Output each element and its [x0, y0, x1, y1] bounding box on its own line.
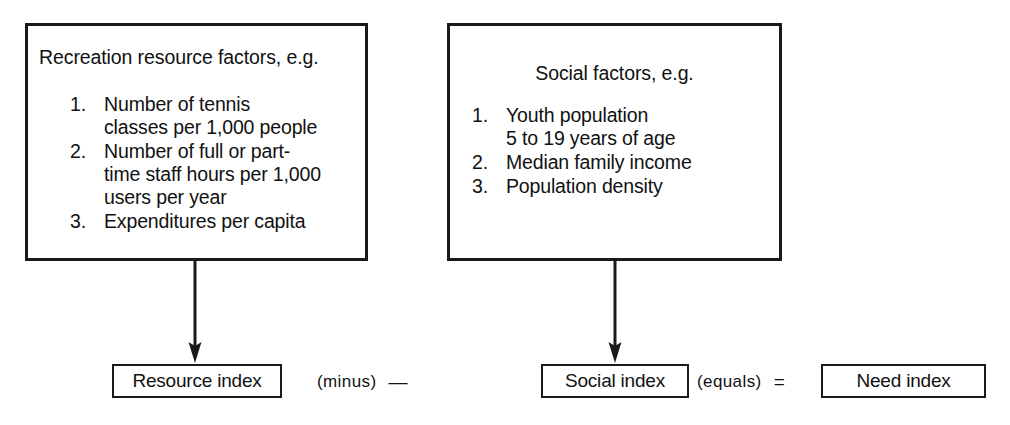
resource-factors-heading: Recreation resource factors, e.g. — [39, 46, 319, 69]
list-item-number: 2. — [472, 151, 502, 174]
need-index-label: Need index — [856, 370, 950, 392]
list-item-number: 1. — [70, 93, 100, 116]
minus-operator: (minus) — — [317, 370, 408, 394]
list-item: 1. Youth population 5 to 19 years of age — [472, 104, 772, 150]
minus-word: (minus) — [317, 372, 376, 392]
diagram-canvas: Recreation resource factors, e.g. 1. Num… — [0, 0, 1010, 425]
list-item: 2. Median family income — [472, 151, 772, 174]
minus-sign-icon: — — [388, 371, 407, 393]
list-item: 3. Expenditures per capita — [70, 210, 360, 233]
list-item-number: 3. — [472, 175, 502, 198]
list-item-text: Expenditures per capita — [104, 210, 360, 233]
social-factors-box: Social factors, e.g. 1. Youth population… — [447, 23, 782, 261]
list-item-number: 3. — [70, 210, 100, 233]
social-index-box: Social index — [541, 364, 689, 398]
social-index-label: Social index — [565, 370, 665, 392]
list-item: 3. Population density — [472, 175, 772, 198]
resource-factors-list: 1. Number of tennis classes per 1,000 pe… — [70, 93, 360, 234]
list-item-number: 2. — [70, 140, 100, 163]
list-item-text: Youth population 5 to 19 years of age — [506, 104, 772, 150]
resource-index-label: Resource index — [132, 370, 261, 392]
equals-word: (equals) — [697, 372, 762, 392]
social-factors-heading: Social factors, e.g. — [450, 62, 779, 85]
resource-factors-box: Recreation resource factors, e.g. 1. Num… — [25, 23, 368, 261]
list-item-number: 1. — [472, 104, 502, 127]
list-item-text: Number of full or part- time staff hours… — [104, 140, 360, 209]
resource-index-box: Resource index — [112, 364, 282, 398]
list-item: 2. Number of full or part- time staff ho… — [70, 140, 360, 209]
social-factors-list: 1. Youth population 5 to 19 years of age… — [472, 104, 772, 199]
down-arrow-icon — [182, 258, 208, 366]
need-index-box: Need index — [821, 364, 986, 398]
list-item-text: Median family income — [506, 151, 772, 174]
list-item: 1. Number of tennis classes per 1,000 pe… — [70, 93, 360, 139]
down-arrow-icon — [602, 258, 628, 366]
equals-operator: (equals) = — [697, 370, 785, 394]
list-item-text: Number of tennis classes per 1,000 peopl… — [104, 93, 360, 139]
equals-sign-icon: = — [774, 371, 786, 393]
list-item-text: Population density — [506, 175, 772, 198]
